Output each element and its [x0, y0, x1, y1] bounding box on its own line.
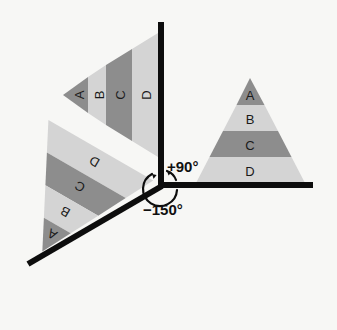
figure-canvas: A B C D A B C D [0, 0, 337, 330]
rotated-90-triangle-label-A: A [72, 90, 87, 99]
rotated-90-triangle-label-D: D [139, 90, 154, 99]
upright-triangle: A B C D [196, 78, 305, 183]
rotated-minus-150-triangle: A B C D [0, 120, 153, 282]
rotated-90-triangle-label-C: C [113, 90, 128, 99]
positive-ninety-label: +90° [167, 158, 198, 175]
upright-triangle-label-D: D [245, 164, 254, 179]
rotation-diagram: A B C D A B C D [0, 0, 337, 330]
upright-triangle-label-C: C [245, 138, 254, 153]
upright-triangle-label-A: A [246, 88, 255, 103]
upright-triangle-label-B: B [246, 112, 255, 127]
negative-one-fifty-label: −150° [143, 201, 183, 218]
rotated-90-triangle-label-B: B [92, 91, 107, 100]
